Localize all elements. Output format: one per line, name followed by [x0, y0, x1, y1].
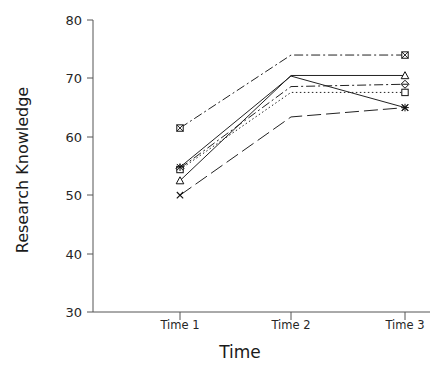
series-2-line — [180, 75, 405, 180]
y-axis-title: Research Knowledge — [13, 87, 32, 253]
x-tick-label-time-1: Time 1 — [159, 318, 199, 332]
y-tick-label-60: 60 — [65, 130, 82, 145]
data-series-layer — [176, 52, 409, 199]
x-axis-title: Time — [218, 342, 261, 362]
series-6-marker-time-1 — [177, 192, 183, 198]
series-1-group — [177, 52, 408, 131]
series-4-line — [180, 92, 405, 169]
y-tick-label-80: 80 — [65, 13, 82, 28]
y-tick-label-40: 40 — [65, 247, 82, 262]
series-2-group — [176, 72, 409, 184]
y-tick-label-70: 70 — [65, 71, 82, 86]
y-axis-tick-labels: 80 70 60 50 40 30 — [65, 13, 82, 320]
series-3-group — [176, 80, 409, 172]
series-4-group — [177, 89, 408, 172]
series-1-marker-time-3 — [402, 52, 408, 58]
series-5-marker-time-1 — [176, 163, 184, 171]
x-tick-label-time-3: Time 3 — [384, 318, 424, 332]
research-knowledge-line-chart: 80 70 60 50 40 30 Time 1 Time 2 Time 3 T… — [0, 0, 435, 368]
axes — [93, 20, 430, 312]
y-tick-label-30: 30 — [65, 305, 82, 320]
series-6-line — [180, 108, 405, 196]
series-5-group — [176, 76, 409, 171]
y-axis-ticks — [87, 20, 93, 312]
series-1-marker-time-1 — [177, 125, 183, 131]
x-tick-label-time-2: Time 2 — [270, 318, 310, 332]
series-4-marker-time-3 — [402, 89, 408, 95]
series-3-line — [180, 84, 405, 168]
chart-figure: 80 70 60 50 40 30 Time 1 Time 2 Time 3 T… — [0, 0, 435, 368]
series-3-marker-time-3 — [401, 80, 409, 88]
y-tick-label-50: 50 — [65, 188, 82, 203]
x-axis-tick-labels: Time 1 Time 2 Time 3 — [159, 318, 424, 332]
series-5-line — [180, 76, 405, 167]
